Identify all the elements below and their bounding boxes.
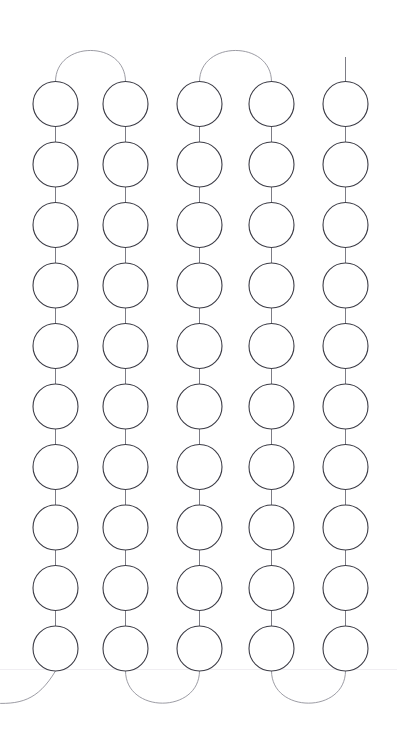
node-circle-45[interactable] [323,324,368,369]
node-circle-11[interactable] [103,82,148,127]
node-circle-19[interactable] [103,566,148,611]
node-circle-6[interactable] [33,384,78,429]
node-circle-17[interactable] [103,445,148,490]
node-circle-33[interactable] [249,203,294,248]
node-circle-25[interactable] [177,324,222,369]
node-circle-41[interactable] [323,82,368,127]
node-circle-27[interactable] [177,445,222,490]
serpentine-chain-svg [0,0,397,743]
node-circle-23[interactable] [177,203,222,248]
node-circle-50[interactable] [323,626,368,671]
node-circle-10[interactable] [33,626,78,671]
node-circle-2[interactable] [33,142,78,187]
node-circle-47[interactable] [323,445,368,490]
arc-col4-col5 [272,671,346,703]
node-circle-3[interactable] [33,203,78,248]
node-circle-32[interactable] [249,142,294,187]
node-circle-22[interactable] [177,142,222,187]
node-circle-9[interactable] [33,566,78,611]
links-group [56,127,346,627]
node-circle-48[interactable] [323,505,368,550]
node-circle-29[interactable] [177,566,222,611]
node-circle-35[interactable] [249,324,294,369]
node-circle-42[interactable] [323,142,368,187]
node-circle-15[interactable] [103,324,148,369]
node-circle-36[interactable] [249,384,294,429]
node-circle-43[interactable] [323,203,368,248]
node-circle-21[interactable] [177,82,222,127]
node-circle-26[interactable] [177,384,222,429]
node-circle-13[interactable] [103,203,148,248]
node-circle-16[interactable] [103,384,148,429]
node-circle-38[interactable] [249,505,294,550]
node-circle-39[interactable] [249,566,294,611]
node-circle-28[interactable] [177,505,222,550]
node-circle-31[interactable] [249,82,294,127]
node-circle-30[interactable] [177,626,222,671]
arc-col1-col2 [56,50,126,81]
node-circle-14[interactable] [103,263,148,308]
node-circle-44[interactable] [323,263,368,308]
node-circle-1[interactable] [33,82,78,127]
node-circle-8[interactable] [33,505,78,550]
node-circle-4[interactable] [33,263,78,308]
node-circle-24[interactable] [177,263,222,308]
nodes-group [33,82,368,672]
node-circle-5[interactable] [33,324,78,369]
diagram-canvas [0,0,397,743]
arc-col3-col4 [200,50,272,81]
exit-col1-bottom [0,671,56,703]
node-circle-12[interactable] [103,142,148,187]
node-circle-34[interactable] [249,263,294,308]
node-circle-7[interactable] [33,445,78,490]
node-circle-18[interactable] [103,505,148,550]
node-circle-20[interactable] [103,626,148,671]
node-circle-40[interactable] [249,626,294,671]
node-circle-37[interactable] [249,445,294,490]
node-circle-46[interactable] [323,384,368,429]
arc-col2-col3 [126,671,200,703]
node-circle-49[interactable] [323,566,368,611]
